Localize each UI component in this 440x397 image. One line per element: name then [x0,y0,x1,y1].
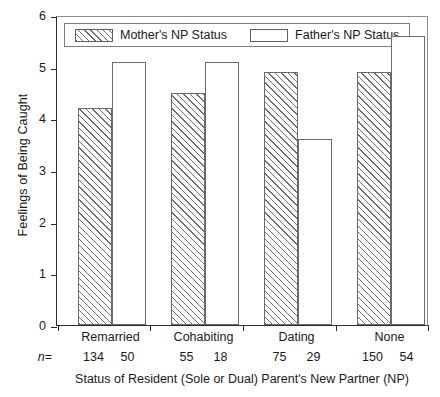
legend-swatch-hatched-icon [75,29,113,42]
y-axis-tick-label: 3 [39,164,46,178]
x-axis-category-label: Remarried [81,330,139,344]
y-axis-tick-label: 4 [39,112,46,126]
sample-size-prefix: n= [38,350,52,364]
n-letter: n [38,350,45,364]
y-axis-tick [51,120,57,121]
n-equals: = [45,350,52,364]
x-axis-category-label: None [375,330,405,344]
sample-size-value: 134 [83,350,104,364]
y-axis-tick-label: 1 [39,267,46,281]
x-axis-category-label: Dating [278,330,314,344]
x-axis-tick [428,325,429,331]
y-axis-tick [51,172,57,173]
bar [78,108,112,325]
bar [205,62,239,326]
sample-size-row: n= 134505518752915054 [56,350,428,366]
sample-size-value: 75 [273,350,287,364]
legend-label-mother: Mother's NP Status [120,29,227,42]
x-axis-title: Status of Resident (Sole or Dual) Parent… [56,372,428,386]
y-axis-tick [51,224,57,225]
sample-size-value: 50 [121,350,135,364]
bar [264,72,298,325]
x-axis-category-label: Cohabiting [174,330,234,344]
legend-label-father: Father's NP Status [295,29,399,42]
y-axis-tick-label: 6 [39,9,46,23]
bar-chart-figure: Feelings of Being Caught 0123456 Mother'… [0,0,440,397]
legend: Mother's NP Status Father's NP Status [64,23,410,47]
y-axis-tick-labels: 0123456 [26,16,46,326]
bar [171,93,205,326]
legend-entry-father: Father's NP Status [250,29,399,42]
y-axis-tick [51,69,57,70]
y-axis-tick [51,327,57,328]
bar [298,139,332,325]
sample-size-value: 55 [180,350,194,364]
bar [112,62,146,326]
bar [391,36,425,325]
sample-size-value: 54 [400,350,414,364]
y-axis-tick-label: 0 [39,319,46,333]
y-axis-tick-label: 5 [39,61,46,75]
y-axis-tick [51,17,57,18]
legend-entry-mother: Mother's NP Status [75,29,227,42]
bars-layer [57,17,427,325]
sample-size-value: 150 [362,350,383,364]
legend-swatch-white-icon [250,29,288,42]
plot-area [56,16,428,326]
bar [357,72,391,325]
sample-size-value: 18 [214,350,228,364]
y-axis-tick [51,275,57,276]
y-axis-tick-label: 2 [39,216,46,230]
x-axis-category-labels: RemarriedCohabitingDatingNone [56,330,428,348]
sample-size-value: 29 [307,350,321,364]
